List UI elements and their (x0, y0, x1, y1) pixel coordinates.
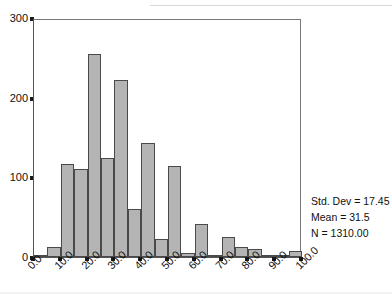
histogram-bar (168, 166, 181, 257)
histogram-bar (141, 143, 154, 257)
y-axis-label: 200 (10, 92, 28, 104)
plot-area (33, 19, 301, 258)
histogram-bar (128, 209, 141, 257)
histogram-screenshot: 0100200300 0.010.020.030.040.050.060.070… (0, 0, 392, 294)
stat-std-dev: Std. Dev = 17.45 (311, 193, 391, 209)
stat-mean: Mean = 31.5 (311, 209, 391, 225)
histogram-bar (61, 164, 74, 257)
stat-n: N = 1310.00 (311, 225, 391, 241)
histogram-bar (74, 169, 87, 257)
histogram-bar (88, 54, 101, 257)
histogram-bar (114, 80, 127, 257)
y-axis-label: 100 (10, 171, 28, 183)
histogram-bar (101, 158, 114, 257)
y-axis-label: 300 (10, 12, 28, 24)
stats-annotation: Std. Dev = 17.45 Mean = 31.5 N = 1310.00 (311, 193, 391, 241)
bar-series (34, 20, 300, 257)
scan-artifact-line (150, 5, 392, 6)
